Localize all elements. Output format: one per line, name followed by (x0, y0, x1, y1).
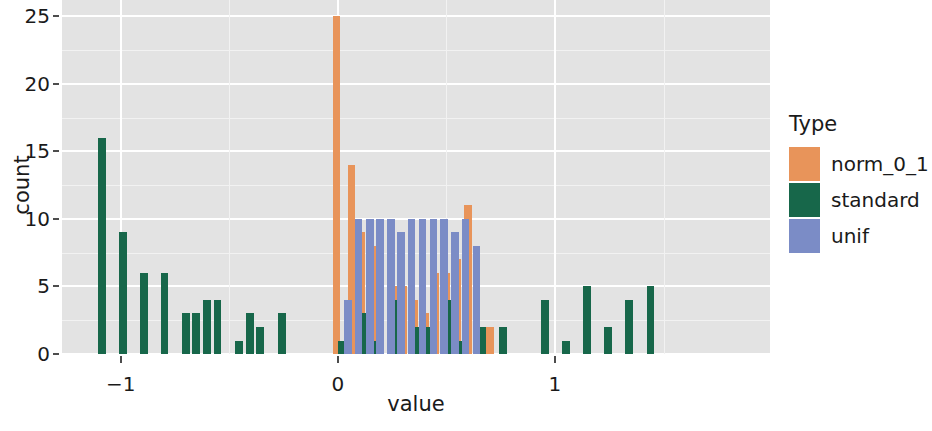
bar-standard (140, 273, 148, 354)
bar-unif (397, 232, 405, 354)
bar-standard (98, 138, 106, 354)
bar-norm_0_1 (486, 327, 494, 354)
bar-unif (451, 232, 459, 354)
bar-standard (625, 300, 633, 354)
legend-title: Type (789, 112, 929, 136)
plot-panel (62, 0, 770, 354)
y-tick-label: 15 (25, 139, 50, 163)
bar-unif (419, 219, 427, 354)
chart-root: count 0510152025 −101 value Type norm_0_… (0, 0, 932, 431)
y-axis-ticks: 0510152025 (0, 0, 62, 370)
bar-standard (235, 341, 243, 355)
bar-standard (499, 327, 507, 354)
y-tick-mark (53, 218, 59, 220)
y-tick-mark (53, 83, 59, 85)
bar-unif (387, 219, 395, 354)
legend-swatch-icon (789, 147, 820, 181)
bar-standard (214, 300, 222, 354)
bar-unif (355, 219, 363, 354)
legend-item-standard[interactable]: standard (789, 182, 929, 218)
bar-standard (246, 313, 254, 354)
legend-item-label: norm_0_1 (831, 152, 929, 176)
bar-standard (182, 313, 190, 354)
bar-standard (192, 313, 200, 354)
x-tick-mark (554, 356, 556, 363)
legend-item-unif[interactable]: unif (789, 218, 929, 254)
legend-item-label: standard (831, 188, 920, 212)
bar-standard (604, 327, 612, 354)
legend: Type norm_0_1standardunif (789, 112, 929, 254)
legend-entries: norm_0_1standardunif (789, 146, 929, 254)
gridline-minor-x (664, 0, 665, 354)
bar-standard (256, 327, 264, 354)
legend-swatch-icon (789, 219, 820, 253)
legend-item-norm_0_1[interactable]: norm_0_1 (789, 146, 929, 182)
bar-standard (161, 273, 169, 354)
y-tick-label: 10 (25, 207, 50, 231)
gridline-minor-x (229, 0, 230, 354)
bar-unif (430, 219, 438, 354)
bar-standard (583, 286, 591, 354)
bar-unif (462, 219, 470, 354)
bar-standard (203, 300, 211, 354)
gridline-major-x (554, 0, 556, 354)
bar-unif (473, 246, 481, 354)
bar-standard (278, 313, 286, 354)
bar-unif (376, 219, 384, 354)
bar-standard (119, 232, 127, 354)
y-tick-label: 20 (25, 72, 50, 96)
y-tick-label: 5 (37, 274, 50, 298)
y-tick-mark (53, 285, 59, 287)
bar-unif (344, 300, 352, 354)
bar-standard (647, 286, 655, 354)
x-tick-mark (120, 356, 122, 363)
x-axis-title: value (62, 392, 770, 416)
legend-item-label: unif (831, 224, 869, 248)
y-tick-label: 25 (25, 4, 50, 28)
bar-unif (440, 219, 448, 354)
y-tick-mark (53, 15, 59, 17)
legend-swatch-icon (789, 183, 820, 217)
y-tick-mark (53, 150, 59, 152)
x-tick-mark (337, 356, 339, 363)
bar-unif (366, 219, 374, 354)
bar-norm_0_1 (333, 16, 341, 354)
bar-standard (562, 341, 570, 355)
bar-unif (408, 219, 416, 354)
bar-standard (541, 300, 549, 354)
